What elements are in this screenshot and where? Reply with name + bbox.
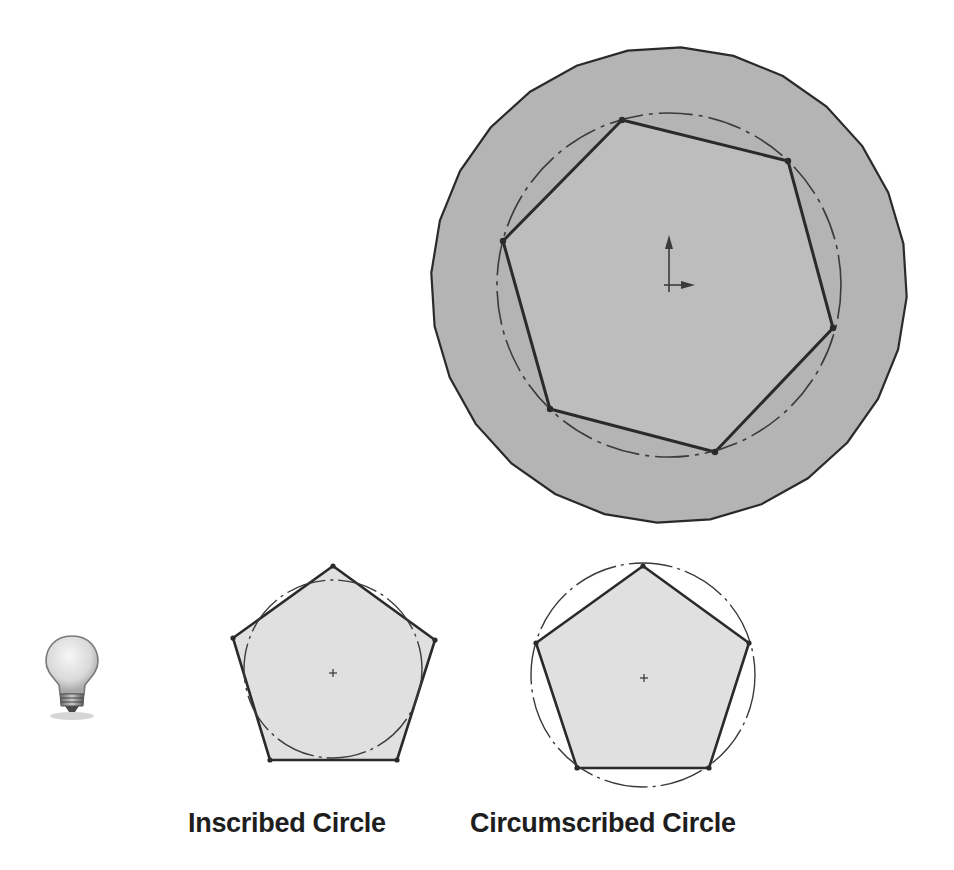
circumscribed-circle-example: [531, 563, 755, 787]
polygon-diagram: [0, 0, 954, 870]
inscribed-circle-example: [230, 563, 437, 762]
inscribed-pentagon: [233, 566, 435, 760]
circumscribed-circle-label: Circumscribed Circle: [470, 808, 736, 839]
main-heptagon-sketch: [431, 47, 906, 522]
lightbulb-icon: [40, 632, 104, 722]
circumscribed-pentagon: [536, 566, 749, 768]
inscribed-circle-label: Inscribed Circle: [188, 808, 386, 839]
